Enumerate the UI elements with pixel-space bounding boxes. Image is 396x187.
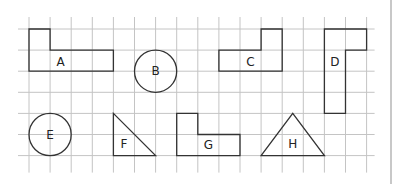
shape-label: E: [46, 128, 54, 142]
shape-label: D: [330, 55, 339, 69]
shape-label: H: [288, 137, 297, 151]
shape-label: G: [204, 138, 213, 152]
page-divider: [390, 0, 392, 184]
shape-label: A: [57, 55, 66, 69]
shape-label: B: [151, 64, 159, 78]
shape-label: F: [120, 137, 127, 151]
shape-label: C: [246, 55, 254, 69]
grid-lines: [18, 17, 375, 173]
shape-grid-diagram: ABCDEFGH: [0, 0, 396, 187]
